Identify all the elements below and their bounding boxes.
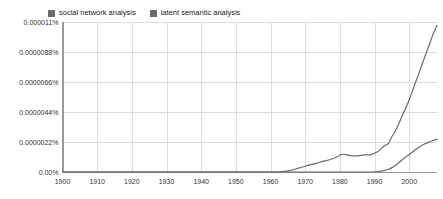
chart-canvas (0, 0, 443, 199)
legend-label: social network analysis (59, 9, 136, 17)
y-axis-tick-label: 0.0000044% (19, 109, 58, 116)
x-axis-tick-label: 1910 (89, 178, 105, 185)
x-axis-tick-label: 1940 (193, 178, 209, 185)
legend-swatch-icon (150, 10, 157, 17)
x-axis-tick-label: 1920 (124, 178, 140, 185)
y-axis-tick-label: 0.000011% (24, 19, 59, 26)
y-axis-tick-label: 0.00% (39, 169, 59, 176)
axis-lines (63, 22, 438, 173)
legend-swatch-icon (48, 10, 55, 17)
x-axis-tick-label: 1950 (228, 178, 244, 185)
series-line (63, 25, 438, 172)
x-axis-tick-label: 1970 (297, 178, 313, 185)
x-axis-tick-label: 1900 (55, 178, 71, 185)
y-axis-tick-label: 0.0000088% (19, 49, 58, 56)
legend-label: latent semantic analysis (161, 9, 241, 17)
x-axis-tick-label: 1990 (367, 178, 383, 185)
x-axis-tick-label: 1960 (263, 178, 279, 185)
y-axis-tick-label: 0.0000066% (19, 79, 58, 86)
series-lines (63, 25, 438, 172)
legend-item-social-network-analysis[interactable]: social network analysis (48, 9, 136, 17)
legend-item-latent-semantic-analysis[interactable]: latent semantic analysis (150, 9, 241, 17)
y-axis-tick-label: 0.0000022% (19, 139, 58, 146)
chart-legend: social network analysis latent semantic … (48, 7, 240, 19)
series-line (63, 139, 438, 172)
x-axis-tick-label: 2000 (401, 178, 417, 185)
x-axis-tick-label: 1980 (332, 178, 348, 185)
x-axis-tick-label: 1930 (159, 178, 175, 185)
ngram-chart: social network analysis latent semantic … (0, 0, 443, 199)
